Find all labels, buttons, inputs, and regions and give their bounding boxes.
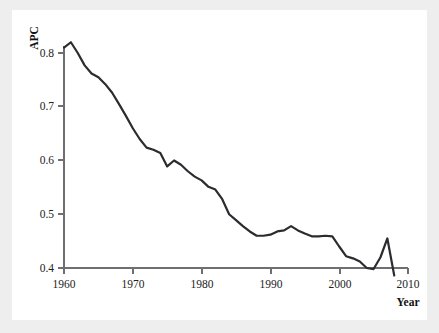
y-tick-label: 0.6 bbox=[40, 154, 55, 166]
x-tick-label: 1960 bbox=[53, 278, 76, 290]
y-tick-label: 0.7 bbox=[40, 100, 55, 112]
x-axis-title: Year bbox=[397, 296, 420, 308]
x-tick-label: 1980 bbox=[191, 278, 214, 290]
x-tick-label: 1990 bbox=[260, 278, 283, 290]
y-tick-label: 0.5 bbox=[40, 208, 55, 220]
y-axis-title: APC bbox=[28, 26, 40, 50]
x-tick-label: 2010 bbox=[397, 278, 420, 290]
x-tick-label: 1970 bbox=[122, 278, 145, 290]
x-tick-label: 2000 bbox=[329, 278, 352, 290]
plot-background bbox=[12, 10, 427, 320]
y-tick-label: 0.4 bbox=[40, 262, 55, 274]
figure-panel: 0.8 0.7 0.6 0.5 0.4 1960 1970 1980 1990 … bbox=[12, 10, 427, 320]
apc-line-chart: 0.8 0.7 0.6 0.5 0.4 1960 1970 1980 1990 … bbox=[12, 10, 427, 320]
y-tick-label: 0.8 bbox=[40, 47, 55, 59]
